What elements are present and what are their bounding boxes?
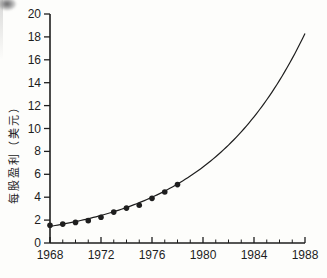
y-tick-label: 18 — [28, 30, 42, 44]
data-point — [73, 220, 79, 226]
x-tick-label: 1972 — [88, 248, 115, 262]
y-tick-label: 10 — [28, 122, 42, 136]
data-point — [149, 196, 155, 202]
x-tick-label: 1984 — [241, 248, 268, 262]
data-point — [85, 218, 91, 224]
data-point — [136, 202, 142, 208]
data-point — [111, 209, 117, 215]
data-point — [162, 189, 168, 195]
data-point — [175, 182, 181, 188]
y-axis-title: 每股盈利（美元） — [5, 100, 21, 204]
y-tick-label: 16 — [28, 53, 42, 67]
data-point — [124, 205, 130, 211]
data-point — [98, 214, 104, 220]
chart-canvas: 0246810121416182019681972197619801984198… — [0, 0, 327, 278]
y-tick-label: 20 — [28, 7, 42, 21]
eps-growth-chart: 0246810121416182019681972197619801984198… — [0, 0, 327, 278]
y-tick-label: 14 — [28, 76, 42, 90]
x-tick-label: 1980 — [190, 248, 217, 262]
y-tick-label: 6 — [34, 167, 41, 181]
data-point — [47, 222, 53, 228]
x-tick-label: 1988 — [292, 248, 319, 262]
y-tick-label: 8 — [34, 144, 41, 158]
x-tick-label: 1976 — [139, 248, 166, 262]
fitted-exponential-curve — [50, 33, 305, 226]
y-tick-label: 12 — [28, 99, 42, 113]
data-point — [60, 221, 66, 227]
x-tick-label: 1968 — [37, 248, 64, 262]
y-tick-label: 4 — [34, 190, 41, 204]
y-tick-label: 2 — [34, 213, 41, 227]
